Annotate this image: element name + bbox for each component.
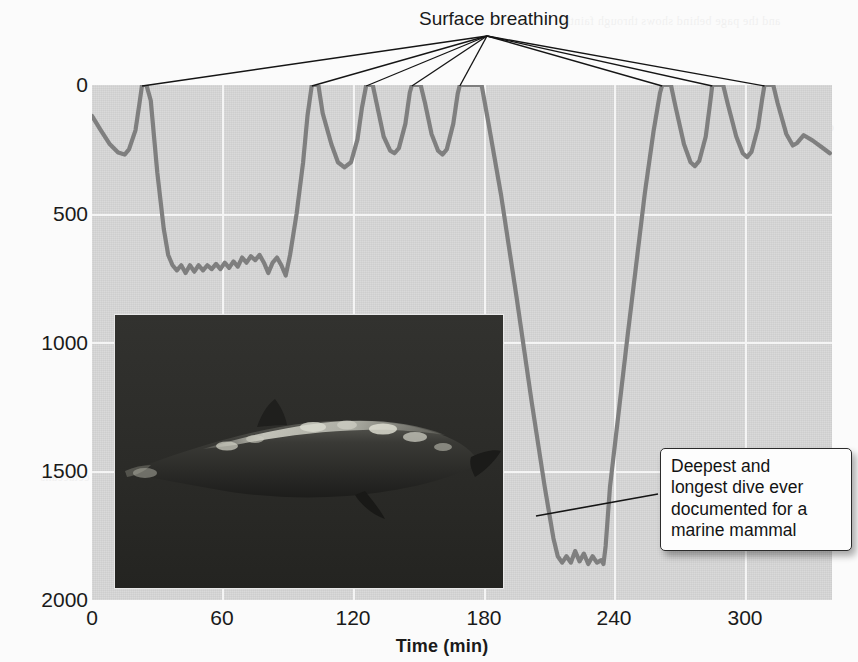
xtick-240: 240 — [574, 606, 654, 630]
xtick-300: 300 — [705, 606, 785, 630]
deepest-dive-line-1: Deepest and — [671, 456, 843, 477]
xtick-0: 0 — [52, 606, 132, 630]
deepest-dive-line-3: documented for a — [671, 499, 843, 520]
beaked-whale-photo — [115, 315, 503, 588]
deepest-dive-line-2: longest dive ever — [671, 477, 843, 498]
surface-breathing-label: Surface breathing — [419, 8, 569, 30]
xtick-120: 120 — [313, 606, 393, 630]
ytick-1000: 1000 — [4, 332, 88, 353]
ytick-0: 0 — [4, 74, 88, 95]
whale-silhouette — [115, 315, 503, 588]
deepest-dive-callout: Deepest and longest dive ever documented… — [660, 448, 852, 551]
y-axis: 0 500 1000 1500 2000 — [0, 0, 88, 662]
x-axis-title-text: Time (min) — [396, 636, 489, 657]
ghost-text-0: and the page behind shows through faintl… — [560, 14, 780, 29]
figure-root: and the page behind shows through faintl… — [0, 0, 858, 662]
surface-leader-262 — [487, 36, 662, 86]
surface-leader-101 — [312, 36, 487, 86]
surface-leader-147 — [412, 36, 487, 86]
surface-leader-23 — [142, 36, 487, 86]
xtick-180: 180 — [444, 606, 524, 630]
deepest-dive-line-4: marine mammal — [671, 520, 843, 541]
surface-leader-285 — [487, 36, 712, 86]
ytick-500: 500 — [4, 203, 88, 224]
xtick-60: 60 — [182, 606, 262, 630]
surface-leader-126 — [366, 36, 487, 86]
ytick-1500: 1500 — [4, 460, 88, 481]
surface-leader-309 — [487, 36, 765, 86]
x-axis-title: Time (min) — [0, 636, 858, 657]
surface-leader-169 — [460, 36, 487, 86]
